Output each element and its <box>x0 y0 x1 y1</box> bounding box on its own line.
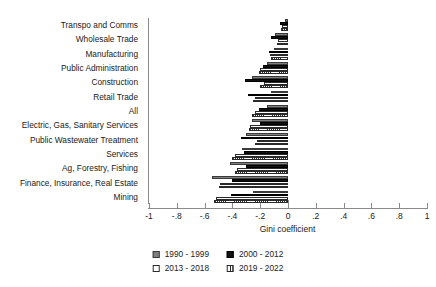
category-label: Retail Trade <box>93 92 138 102</box>
x-axis-tick-label: -.4 <box>217 211 247 222</box>
legend-item[interactable]: 2013 - 2018 <box>153 263 209 273</box>
x-axis-tick <box>344 203 345 209</box>
bar <box>219 186 289 189</box>
x-axis-tick <box>149 203 150 209</box>
bar <box>255 143 288 146</box>
bar <box>260 85 288 88</box>
x-axis-tick-label: .4 <box>329 211 359 222</box>
x-axis-tick-label: .8 <box>384 211 414 222</box>
x-axis-tick <box>371 203 372 209</box>
legend-swatch-icon <box>153 265 160 272</box>
bar <box>281 28 288 31</box>
gini-coefficient-bar-chart: Transpo and CommsWholesale TradeManufact… <box>0 0 436 287</box>
x-axis-tick <box>205 203 206 209</box>
bar <box>277 43 288 46</box>
x-axis-tick-label: 1 <box>412 211 436 222</box>
bar <box>232 157 288 160</box>
legend-label: 2019 - 2022 <box>239 263 283 273</box>
category-label: Electric, Gas, Sanitary Services <box>22 120 138 130</box>
x-axis-tick-label: .6 <box>356 211 386 222</box>
x-axis-tick <box>427 203 428 209</box>
category-label: All <box>129 106 138 116</box>
category-label: Public Wastewater Treatment <box>30 135 138 145</box>
x-axis-tick-label: -.8 <box>162 211 192 222</box>
category-label: Ag, Forestry, Fishing <box>62 163 138 173</box>
plot-area <box>148 18 427 208</box>
legend-item[interactable]: 1990 - 1999 <box>153 249 209 259</box>
y-axis-spine <box>148 18 149 204</box>
legend-swatch-icon <box>227 251 234 258</box>
category-label: Mining <box>114 192 138 202</box>
legend-items: 1990 - 19992000 - 20122013 - 20182019 - … <box>153 249 284 273</box>
x-axis-tick <box>399 203 400 209</box>
legend-swatch-icon <box>153 251 160 258</box>
x-axis-tick-label: -1 <box>134 211 164 222</box>
category-label: Manufacturing <box>85 49 138 59</box>
bar <box>259 71 288 74</box>
legend-label: 1990 - 1999 <box>165 249 209 259</box>
category-label: Transpo and Comms <box>61 20 138 30</box>
x-axis-tick <box>316 203 317 209</box>
category-label: Services <box>106 149 138 159</box>
legend-item[interactable]: 2019 - 2022 <box>227 263 283 273</box>
category-label: Finance, Insurance, Real Estate <box>20 178 138 188</box>
x-axis-tick <box>260 203 261 209</box>
legend-label: 2000 - 2012 <box>239 249 283 259</box>
chart-legend: 1990 - 19992000 - 20122013 - 20182019 - … <box>0 249 436 281</box>
bar <box>235 171 288 174</box>
legend-label: 2013 - 2018 <box>165 263 209 273</box>
bar <box>249 128 288 131</box>
category-label: Public Administration <box>61 63 138 73</box>
bar <box>214 200 288 203</box>
x-axis-title: Gini coefficient <box>148 224 427 234</box>
legend-swatch-icon <box>227 265 234 272</box>
bar <box>252 114 288 117</box>
x-axis-tick <box>288 200 289 209</box>
x-axis-tick <box>177 203 178 209</box>
x-axis-tick-label: -.6 <box>190 211 220 222</box>
legend-item[interactable]: 2000 - 2012 <box>227 249 283 259</box>
bar <box>253 100 288 103</box>
x-axis-tick-label: .2 <box>301 211 331 222</box>
x-axis-tick-label: -.2 <box>245 211 275 222</box>
category-axis-labels: Transpo and CommsWholesale TradeManufact… <box>0 18 143 208</box>
category-label: Construction <box>91 77 138 87</box>
category-label: Wholesale Trade <box>76 34 138 44</box>
x-axis-tick <box>232 203 233 209</box>
x-axis-tick-label: 0 <box>273 211 303 222</box>
bar <box>271 57 288 60</box>
